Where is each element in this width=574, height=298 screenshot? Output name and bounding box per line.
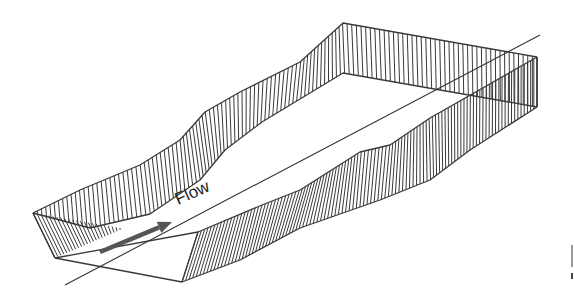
edge-mark-bar [571,245,573,267]
back-wall-bottom-edge [33,73,537,228]
back-wall-top-edge [33,23,537,213]
near-wall-hatching [182,57,537,282]
flow-label: Flow [172,176,213,208]
channel-floor-front-edge [55,258,182,282]
near-wall-bottom-edge [182,107,537,282]
edge-mark-dot [571,273,573,279]
flow-channel-diagram: Flow [0,0,574,298]
